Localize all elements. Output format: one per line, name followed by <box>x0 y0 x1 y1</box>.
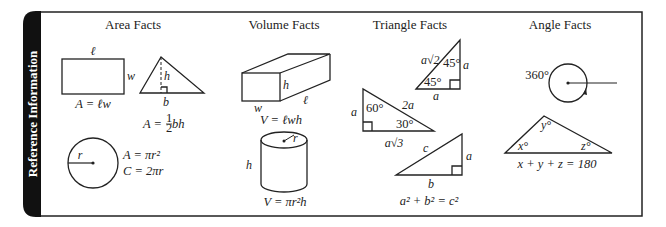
reference-diagram: Reference Information Area Facts ℓ w A =… <box>0 0 666 227</box>
angle-top-label: 45° <box>443 56 461 70</box>
svg-text:bh: bh <box>172 117 185 131</box>
leg-b-label: b <box>428 177 434 191</box>
circle-center <box>91 161 94 164</box>
panel-border <box>36 12 642 216</box>
angle-y-label: y° <box>540 118 551 132</box>
circle-area-formula: A = πr² <box>122 148 160 162</box>
svg-text:A =: A = <box>142 117 162 131</box>
rectangle-length-label: ℓ <box>91 44 96 58</box>
prism-height-label: h <box>283 78 289 92</box>
triangle-height-label: h <box>164 69 170 83</box>
leg-a-label: a <box>466 149 472 163</box>
angle-z-label: z° <box>580 139 591 153</box>
vertical-leg-label: a <box>463 58 469 72</box>
volume-facts-heading: Volume Facts <box>249 17 320 32</box>
cylinder-height-label: h <box>246 158 252 172</box>
hypotenuse-c-label: c <box>423 141 429 155</box>
cylinder-radius-label: r <box>293 131 298 145</box>
circle-radius-label: r <box>78 148 83 162</box>
angle-bottom-label: 45° <box>424 75 442 89</box>
rectangle-width-label: w <box>127 69 135 83</box>
side-tab-label: Reference Information <box>25 50 40 177</box>
pythagorean-formula: a² + b² = c² <box>400 194 459 208</box>
hypotenuse-label: a√2 <box>421 53 440 67</box>
horizontal-leg-label: a <box>433 89 439 103</box>
angle-sum-formula: x + y + z = 180 <box>517 157 598 171</box>
angle-facts-heading: Angle Facts <box>529 17 591 32</box>
rectangle-area-formula: A = ℓw <box>74 97 111 111</box>
prism-volume-formula: V = ℓwh <box>260 113 302 127</box>
area-facts-heading: Area Facts <box>105 17 161 32</box>
triangle-base-label: b <box>163 95 169 109</box>
rotation-label: 360° <box>525 68 549 82</box>
circle-circumference-formula: C = 2πr <box>123 164 164 178</box>
angle-60-label: 60° <box>366 101 384 115</box>
short-leg-label: a <box>351 105 357 119</box>
cylinder-volume-formula: V = πr²h <box>263 195 306 209</box>
prism-length-label: ℓ <box>303 93 308 107</box>
hypotenuse-2a-label: 2a <box>402 98 414 112</box>
angle-x-label: x° <box>517 139 528 153</box>
triangle-facts-heading: Triangle Facts <box>373 17 447 32</box>
long-leg-label: a√3 <box>385 136 404 150</box>
reference-information-panel: Reference Information Area Facts ℓ w A =… <box>0 0 666 227</box>
angle-30-label: 30° <box>396 117 414 131</box>
